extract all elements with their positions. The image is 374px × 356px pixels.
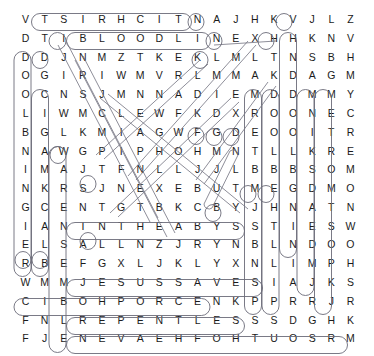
grid-cell[interactable]: L	[188, 66, 207, 85]
grid-cell[interactable]: N	[322, 29, 341, 48]
grid-cell[interactable]: D	[150, 29, 169, 48]
grid-cell[interactable]: V	[207, 273, 226, 292]
grid-cell[interactable]: C	[92, 104, 111, 123]
grid-cell[interactable]: L	[35, 235, 54, 254]
grid-cell[interactable]: M	[35, 160, 54, 179]
grid-cell[interactable]: E	[264, 179, 283, 198]
grid-cell[interactable]: E	[169, 179, 188, 198]
grid-cell[interactable]: B	[245, 160, 264, 179]
grid-cell[interactable]: B	[322, 48, 341, 67]
word-search-puzzle[interactable]: VTSIRHCITNAJHKVJLZDTIBLOODLINEXHHKNVDDJN…	[0, 0, 374, 356]
grid-cell[interactable]: Z	[341, 10, 360, 29]
grid-cell[interactable]: N	[207, 292, 226, 311]
grid-cell[interactable]: G	[150, 123, 169, 142]
grid-cell[interactable]: Y	[207, 254, 226, 273]
grid-cell[interactable]: L	[207, 48, 226, 67]
grid-cell[interactable]: J	[150, 254, 169, 273]
grid-cell[interactable]: I	[264, 273, 283, 292]
grid-cell[interactable]: C	[169, 292, 188, 311]
grid-cell[interactable]: R	[322, 329, 341, 348]
grid-cell[interactable]: A	[188, 273, 207, 292]
grid-cell[interactable]: M	[245, 85, 264, 104]
grid-cell[interactable]: W	[112, 66, 131, 85]
grid-cell[interactable]: E	[188, 292, 207, 311]
grid-cell[interactable]: V	[284, 10, 303, 29]
grid-cell[interactable]: S	[54, 10, 73, 29]
grid-cell[interactable]: G	[35, 123, 54, 142]
grid-cell[interactable]: L	[169, 160, 188, 179]
grid-cell[interactable]: N	[245, 254, 264, 273]
grid-cell[interactable]: E	[16, 235, 35, 254]
grid-cell[interactable]: S	[245, 273, 264, 292]
grid-cell[interactable]: X	[226, 254, 245, 273]
grid-cell[interactable]: H	[264, 29, 283, 48]
grid-cell[interactable]: E	[245, 123, 264, 142]
grid-cell[interactable]: W	[150, 104, 169, 123]
grid-cell[interactable]: T	[245, 329, 264, 348]
grid-cell[interactable]: W	[54, 104, 73, 123]
grid-cell[interactable]: B	[188, 179, 207, 198]
grid-cell[interactable]: U	[207, 179, 226, 198]
grid-cell[interactable]: N	[73, 329, 92, 348]
grid-cell[interactable]: D	[303, 235, 322, 254]
grid-cell[interactable]: P	[92, 141, 111, 160]
grid-cell[interactable]: E	[322, 104, 341, 123]
grid-cell[interactable]: Y	[226, 198, 245, 217]
grid-cell[interactable]: G	[16, 198, 35, 217]
grid-cell[interactable]: I	[35, 104, 54, 123]
grid-cell[interactable]: A	[35, 217, 54, 236]
grid-cell[interactable]: B	[188, 217, 207, 236]
grid-cell[interactable]: A	[303, 66, 322, 85]
grid-cell[interactable]: I	[112, 141, 131, 160]
grid-cell[interactable]: D	[284, 85, 303, 104]
grid-cell[interactable]: L	[264, 141, 283, 160]
grid-cell[interactable]: M	[226, 66, 245, 85]
grid-cell[interactable]: H	[245, 10, 264, 29]
grid-cell[interactable]: E	[303, 217, 322, 236]
grid-cell[interactable]: J	[303, 10, 322, 29]
grid-cell[interactable]: N	[150, 310, 169, 329]
grid-cell[interactable]: R	[322, 141, 341, 160]
grid-cell[interactable]: E	[131, 179, 150, 198]
grid-cell[interactable]: J	[54, 48, 73, 67]
grid-cell[interactable]: D	[264, 85, 283, 104]
grid-cell[interactable]: M	[322, 85, 341, 104]
grid-cell[interactable]: M	[207, 141, 226, 160]
grid-cell[interactable]: H	[284, 29, 303, 48]
grid-cell[interactable]: G	[35, 66, 54, 85]
grid-cell[interactable]: M	[207, 66, 226, 85]
grid-cell[interactable]: K	[322, 273, 341, 292]
grid-cell[interactable]: N	[284, 198, 303, 217]
grid-cell[interactable]: H	[92, 292, 111, 311]
grid-cell[interactable]: H	[341, 254, 360, 273]
grid-cell[interactable]: O	[322, 235, 341, 254]
grid-cell[interactable]: F	[169, 104, 188, 123]
grid-cell[interactable]: H	[112, 10, 131, 29]
grid-cell[interactable]: S	[226, 310, 245, 329]
grid-cell[interactable]: N	[150, 85, 169, 104]
grid-cell[interactable]: K	[169, 198, 188, 217]
grid-cell[interactable]: E	[207, 310, 226, 329]
grid-cell[interactable]: T	[169, 310, 188, 329]
grid-cell[interactable]: Z	[150, 235, 169, 254]
grid-cell[interactable]: E	[169, 48, 188, 67]
grid-cell[interactable]: P	[131, 141, 150, 160]
grid-cell[interactable]: O	[341, 235, 360, 254]
grid-cell[interactable]: P	[322, 254, 341, 273]
grid-cell[interactable]: R	[73, 66, 92, 85]
grid-cell[interactable]: O	[16, 66, 35, 85]
grid-cell[interactable]: J	[92, 179, 111, 198]
grid-cell[interactable]: H	[188, 141, 207, 160]
grid-cell[interactable]: A	[207, 10, 226, 29]
grid-cell[interactable]: K	[150, 48, 169, 67]
grid-cell[interactable]: S	[322, 217, 341, 236]
grid-cell[interactable]: L	[226, 160, 245, 179]
grid-cell[interactable]: F	[112, 160, 131, 179]
grid-cell[interactable]: L	[54, 310, 73, 329]
grid-cell[interactable]: E	[54, 254, 73, 273]
grid-cell[interactable]: S	[245, 310, 264, 329]
grid-cell[interactable]: A	[54, 160, 73, 179]
grid-cell[interactable]: I	[16, 217, 35, 236]
grid-cell[interactable]: M	[245, 179, 264, 198]
grid-cell[interactable]: D	[226, 123, 245, 142]
